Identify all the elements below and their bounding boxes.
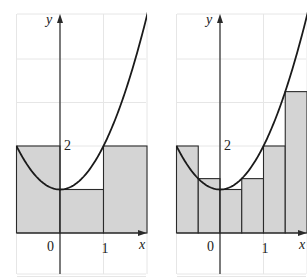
y-tick-2-label: 2 [224, 138, 231, 153]
panel-n6: yx012 [177, 0, 308, 277]
panel-n3: yx012 [17, 0, 156, 277]
rectangle [242, 179, 264, 233]
rectangle [104, 146, 148, 233]
riemann-sum-figure: yx012yx012 [0, 0, 307, 280]
x-axis-label: x [298, 237, 306, 252]
rectangle [177, 146, 199, 233]
rectangle [264, 146, 286, 233]
rectangle [220, 190, 242, 234]
x-tick-1-label: 1 [102, 241, 109, 256]
y-axis-label: y [204, 12, 213, 27]
rectangle [60, 190, 104, 234]
y-axis-arrow-icon [217, 14, 223, 23]
riemann-rectangles [177, 92, 308, 233]
origin-label: 0 [207, 239, 214, 254]
y-tick-2-label: 2 [64, 138, 71, 153]
y-axis-label: y [44, 12, 53, 27]
x-tick-1-label: 1 [262, 241, 269, 256]
riemann-rectangles [17, 146, 148, 233]
y-axis-arrow-icon [57, 14, 63, 23]
origin-label: 0 [47, 239, 54, 254]
x-axis-label: x [138, 237, 146, 252]
grid [17, 14, 148, 277]
rectangle [285, 92, 307, 233]
